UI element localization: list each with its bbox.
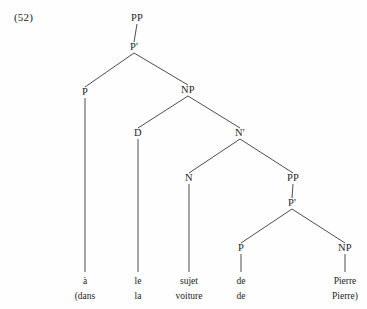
tree-leaf-word-4: Pierre (334, 276, 357, 286)
tree-node-pbar1: P' (130, 41, 138, 52)
tree-edge-nbar1-to-n1 (189, 139, 240, 173)
tree-node-pbar2: P' (288, 197, 296, 208)
tree-edge-pp2-to-pbar2 (292, 184, 293, 198)
tree-edge-pp1-to-pbar1 (134, 24, 137, 42)
tree-node-pp2: PP (287, 172, 299, 183)
tree-edge-np1-to-nbar1 (188, 96, 240, 128)
tree-edge-pbar2-to-np2 (292, 209, 345, 243)
tree-node-p1: P (82, 86, 88, 97)
tree-leaf-gloss-2: voiture (176, 291, 203, 301)
tree-edges-group (85, 24, 345, 243)
syntax-tree-figure: (52) PPP'PNPDN'NPPP'PNP à(danslelasujetv… (0, 0, 367, 309)
tree-node-pp1: PP (131, 12, 143, 23)
tree-node-labels-group: PPP'PNPDN'NPPP'PNP (82, 12, 352, 253)
tree-leaf-gloss-1: la (135, 291, 143, 301)
tree-leaf-word-2: sujet (180, 276, 198, 286)
tree-leaf-words-group: à(danslelasujetvoiturededePierrePierre) (75, 276, 358, 302)
tree-edge-pbar1-to-np1 (134, 53, 188, 85)
tree-leaf-gloss-3: de (237, 291, 246, 301)
tree-edge-pbar2-to-p2 (241, 209, 292, 243)
tree-node-nbar1: N' (235, 127, 245, 138)
tree-node-np2: NP (338, 242, 352, 253)
tree-node-d1: D (134, 127, 142, 138)
tree-edge-pbar1-to-p1 (85, 53, 134, 87)
tree-leaf-word-0: à (83, 276, 88, 286)
tree-edge-nbar1-to-pp2 (240, 139, 293, 173)
syntax-tree-svg: PPP'PNPDN'NPPP'PNP à(danslelasujetvoitur… (0, 0, 367, 309)
tree-leaf-word-3: de (237, 276, 246, 286)
tree-node-np1: NP (181, 84, 195, 95)
tree-node-p2: P (238, 242, 244, 253)
tree-leaf-gloss-4: Pierre) (332, 291, 358, 302)
tree-leaf-gloss-0: (dans (75, 291, 96, 302)
tree-edge-np1-to-d1 (138, 96, 188, 128)
tree-leaf-lines-group (85, 98, 345, 272)
tree-leaf-word-1: le (135, 276, 142, 286)
tree-node-n1: N (185, 172, 193, 183)
